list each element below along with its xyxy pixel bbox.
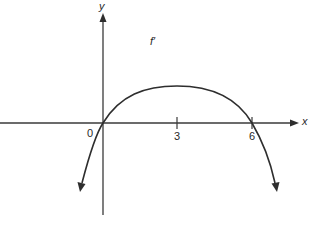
curve-right-arrow-icon: [272, 182, 280, 192]
derivative-graph: y f′ x 0 3 6: [0, 0, 312, 228]
function-label: f′: [150, 36, 155, 47]
y-axis-label: y: [99, 1, 105, 12]
origin-label: 0: [87, 128, 93, 139]
tick-label-6: 6: [249, 131, 255, 142]
y-axis-arrow-icon: [100, 13, 107, 22]
graph-canvas: [0, 0, 312, 228]
curve-left-arrow-icon: [78, 182, 86, 192]
tick-label-3: 3: [174, 131, 180, 142]
x-axis-arrow-icon: [290, 120, 299, 127]
x-axis-label: x: [302, 116, 308, 127]
